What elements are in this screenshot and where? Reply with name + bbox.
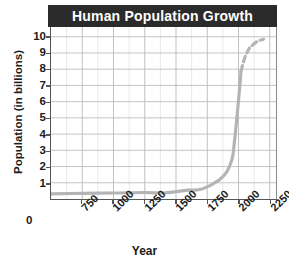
y-axis-tick-label: 10	[24, 31, 46, 43]
x-axis-tick-mark	[270, 200, 271, 204]
series-line-projected	[241, 39, 264, 71]
chart-figure: Human Population Growth Population (in b…	[0, 0, 289, 271]
chart-title-banner: Human Population Growth	[48, 5, 277, 27]
x-axis-title: Year	[0, 244, 289, 258]
plot-area	[50, 27, 277, 200]
y-axis-zero-label: 0	[26, 214, 32, 226]
x-axis-tick-mark	[144, 200, 145, 204]
x-axis-tick-mark	[112, 200, 113, 204]
y-axis-tick-label: 6	[24, 96, 46, 108]
y-axis-tick-label: 8	[24, 63, 46, 75]
y-axis-tick-label: 5	[24, 112, 46, 124]
x-axis-tick-mark	[81, 200, 82, 204]
y-axis-tick-label: 4	[24, 129, 46, 141]
y-axis-tick-label: 7	[24, 80, 46, 92]
y-axis-tick-label: 2	[24, 161, 46, 173]
y-axis-tick-label: 3	[24, 145, 46, 157]
chart-title: Human Population Growth	[72, 8, 253, 24]
y-axis-tick-label: 1	[24, 178, 46, 190]
plot-canvas	[51, 27, 276, 199]
x-axis-tick-mark	[175, 200, 176, 204]
x-axis-tick-mark	[207, 200, 208, 204]
series-line-observed	[51, 71, 241, 194]
y-axis-tick-labels: 12345678910	[22, 0, 46, 271]
x-axis-tick-mark	[238, 200, 239, 204]
y-axis-tick-label: 9	[24, 47, 46, 59]
